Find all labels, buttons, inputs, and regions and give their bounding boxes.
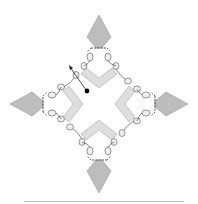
black-dot-marker — [85, 89, 90, 94]
arm-right — [115, 86, 188, 137]
assembly-diagram — [0, 0, 198, 204]
arm-left — [10, 72, 83, 123]
arm-bottom — [67, 120, 118, 193]
diagram-canvas — [0, 0, 198, 204]
arm-top — [81, 15, 132, 88]
